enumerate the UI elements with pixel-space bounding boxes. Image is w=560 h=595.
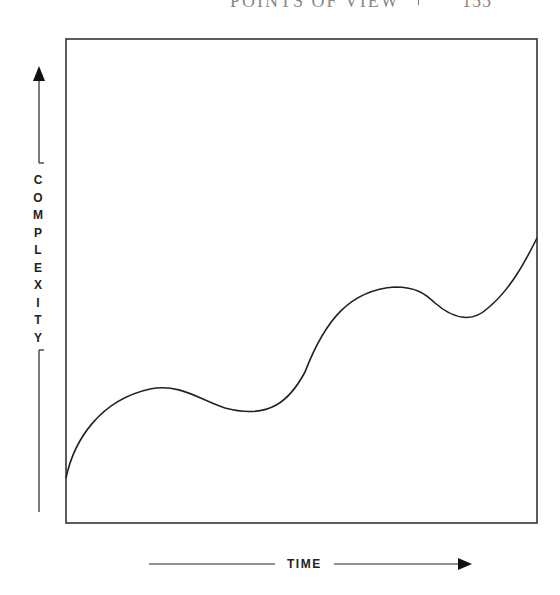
arrowhead-right-icon <box>458 558 472 570</box>
y-label-letter: L <box>31 242 45 260</box>
y-label-letter: O <box>31 190 45 208</box>
arrowhead-up-icon <box>33 66 45 81</box>
complexity-curve <box>66 238 537 478</box>
y-label-letter: X <box>31 277 45 295</box>
y-axis-label: C O M P L E X I T Y <box>31 172 45 347</box>
y-label-letter: Y <box>31 330 45 348</box>
y-label-letter: P <box>31 225 45 243</box>
y-label-letter: I <box>31 295 45 313</box>
chart <box>0 0 560 595</box>
y-label-letter: E <box>31 260 45 278</box>
y-label-letter: M <box>31 207 45 225</box>
y-label-letter: T <box>31 312 45 330</box>
y-label-letter: C <box>31 172 45 190</box>
x-axis-label: TIME <box>287 557 322 571</box>
plot-frame <box>66 39 537 523</box>
